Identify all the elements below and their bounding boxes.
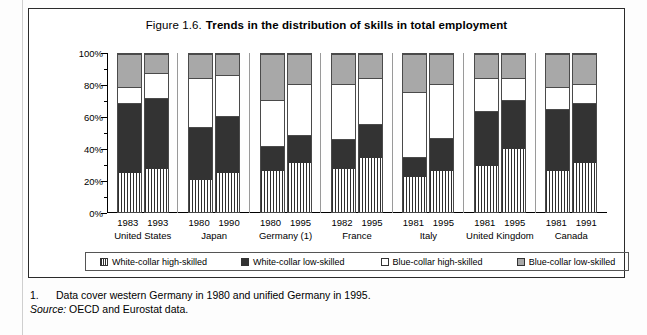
segment-blue-collar-low-skilled bbox=[546, 54, 569, 87]
legend-label: Blue-collar high-skilled bbox=[393, 257, 483, 267]
segment-white-collar-low-skilled bbox=[145, 98, 168, 169]
segment-blue-collar-high-skilled bbox=[216, 75, 239, 116]
segment-white-collar-high-skilled bbox=[430, 171, 453, 212]
x-axis-year: 1983 bbox=[113, 217, 143, 228]
segment-white-collar-low-skilled bbox=[430, 138, 453, 171]
segment-blue-collar-high-skilled bbox=[403, 92, 426, 157]
segment-white-collar-high-skilled bbox=[475, 166, 498, 212]
segment-blue-collar-low-skilled bbox=[118, 54, 141, 87]
x-axis-country: France bbox=[321, 230, 392, 241]
legend-item[interactable]: Blue-collar low-skilled bbox=[517, 257, 616, 267]
segment-white-collar-high-skilled bbox=[216, 173, 239, 213]
segment-white-collar-high-skilled bbox=[546, 171, 569, 212]
x-axis-year: 1981 bbox=[470, 217, 500, 228]
page-left-rule bbox=[22, 0, 23, 335]
x-axis-year: 1981 bbox=[541, 217, 571, 228]
x-axis-years: 19821995 bbox=[321, 217, 392, 228]
stacked-bar[interactable] bbox=[501, 53, 526, 213]
segment-blue-collar-high-skilled bbox=[145, 73, 168, 98]
bar-group bbox=[321, 53, 392, 213]
stacked-bar[interactable] bbox=[188, 53, 213, 213]
stacked-bar[interactable] bbox=[402, 53, 427, 213]
segment-blue-collar-high-skilled bbox=[332, 84, 355, 139]
x-axis-country: Japan bbox=[178, 230, 249, 241]
figure-notes: 1.Data cover western Germany in 1980 and… bbox=[30, 288, 620, 316]
legend-item[interactable]: White-collar high-skilled bbox=[100, 257, 207, 267]
x-axis-year: 1995 bbox=[428, 217, 458, 228]
y-axis-label: 0% bbox=[63, 208, 103, 219]
segment-blue-collar-high-skilled bbox=[546, 87, 569, 109]
segment-blue-collar-low-skilled bbox=[189, 54, 212, 78]
stacked-bar[interactable] bbox=[572, 53, 597, 213]
segment-blue-collar-low-skilled bbox=[403, 54, 426, 92]
legend-swatch-wh-low-icon bbox=[241, 258, 249, 266]
source-text: OECD and Eurostat data. bbox=[69, 303, 188, 315]
stacked-bar[interactable] bbox=[117, 53, 142, 213]
stacked-bar[interactable] bbox=[215, 53, 240, 213]
x-axis-country: Germany (1) bbox=[250, 230, 321, 241]
x-axis-labels: 19831993United States19801990Japan198019… bbox=[107, 217, 607, 249]
x-axis-country: United Kingdom bbox=[464, 230, 535, 241]
stacked-bar[interactable] bbox=[287, 53, 312, 213]
stacked-bar[interactable] bbox=[429, 53, 454, 213]
x-axis-group-label: 19811995United Kingdom bbox=[464, 217, 535, 241]
x-axis-year: 1980 bbox=[184, 217, 214, 228]
segment-blue-collar-high-skilled bbox=[573, 84, 596, 103]
source-label: Source: bbox=[30, 303, 66, 315]
segment-blue-collar-low-skilled bbox=[359, 54, 382, 78]
segment-blue-collar-high-skilled bbox=[502, 78, 525, 100]
segment-blue-collar-low-skilled bbox=[288, 54, 311, 84]
legend-label: White-collar high-skilled bbox=[112, 257, 207, 267]
stacked-bar[interactable] bbox=[358, 53, 383, 213]
legend-item[interactable]: White-collar low-skilled bbox=[241, 257, 345, 267]
x-axis-years: 19801990 bbox=[178, 217, 249, 228]
legend-item[interactable]: Blue-collar high-skilled bbox=[381, 257, 483, 267]
stacked-bar[interactable] bbox=[474, 53, 499, 213]
segment-blue-collar-low-skilled bbox=[261, 54, 284, 100]
legend-swatch-bl-low-icon bbox=[517, 258, 525, 266]
x-axis-group-label: 19801990Japan bbox=[178, 217, 249, 241]
segment-white-collar-high-skilled bbox=[332, 169, 355, 212]
segment-white-collar-high-skilled bbox=[502, 149, 525, 212]
y-axis-label: 20% bbox=[63, 176, 103, 187]
y-axis-label: 80% bbox=[63, 80, 103, 91]
segment-white-collar-low-skilled bbox=[475, 111, 498, 166]
segment-white-collar-low-skilled bbox=[573, 103, 596, 163]
stacked-bar[interactable] bbox=[545, 53, 570, 213]
segment-white-collar-low-skilled bbox=[261, 146, 284, 171]
segment-blue-collar-high-skilled bbox=[475, 78, 498, 111]
x-axis-group-label: 19831993United States bbox=[107, 217, 178, 241]
segment-blue-collar-high-skilled bbox=[430, 84, 453, 138]
x-axis-year: 1995 bbox=[500, 217, 530, 228]
x-axis-group-label: 19811991Canada bbox=[536, 217, 607, 241]
legend-swatch-wh-high-icon bbox=[100, 258, 108, 266]
segment-white-collar-high-skilled bbox=[118, 173, 141, 213]
segment-white-collar-high-skilled bbox=[403, 177, 426, 212]
bar-group bbox=[178, 53, 249, 213]
segment-white-collar-low-skilled bbox=[189, 127, 212, 181]
segment-white-collar-low-skilled bbox=[502, 100, 525, 149]
x-axis-country: United States bbox=[107, 230, 178, 241]
segment-white-collar-high-skilled bbox=[573, 163, 596, 212]
x-axis-year: 1981 bbox=[398, 217, 428, 228]
segment-blue-collar-high-skilled bbox=[118, 87, 141, 103]
stacked-bar[interactable] bbox=[144, 53, 169, 213]
segment-blue-collar-high-skilled bbox=[288, 84, 311, 135]
x-axis-country: Canada bbox=[536, 230, 607, 241]
x-axis-years: 19811991 bbox=[536, 217, 607, 228]
segment-white-collar-low-skilled bbox=[216, 116, 239, 173]
chart-legend: White-collar high-skilledWhite-collar lo… bbox=[85, 252, 629, 271]
segment-blue-collar-low-skilled bbox=[332, 54, 355, 84]
segment-blue-collar-low-skilled bbox=[502, 54, 525, 78]
x-axis-year: 1993 bbox=[143, 217, 173, 228]
segment-white-collar-low-skilled bbox=[546, 109, 569, 171]
stacked-bar[interactable] bbox=[331, 53, 356, 213]
x-axis-group-label: 19811995Italy bbox=[393, 217, 464, 241]
stacked-bar[interactable] bbox=[260, 53, 285, 213]
legend-label: White-collar low-skilled bbox=[253, 257, 345, 267]
bar-group bbox=[536, 53, 607, 213]
x-axis-year: 1982 bbox=[327, 217, 357, 228]
page-canvas: Figure 1.6.Trends in the distribution of… bbox=[0, 0, 647, 335]
figure-number: Figure 1.6. bbox=[146, 19, 202, 31]
segment-blue-collar-low-skilled bbox=[475, 54, 498, 78]
